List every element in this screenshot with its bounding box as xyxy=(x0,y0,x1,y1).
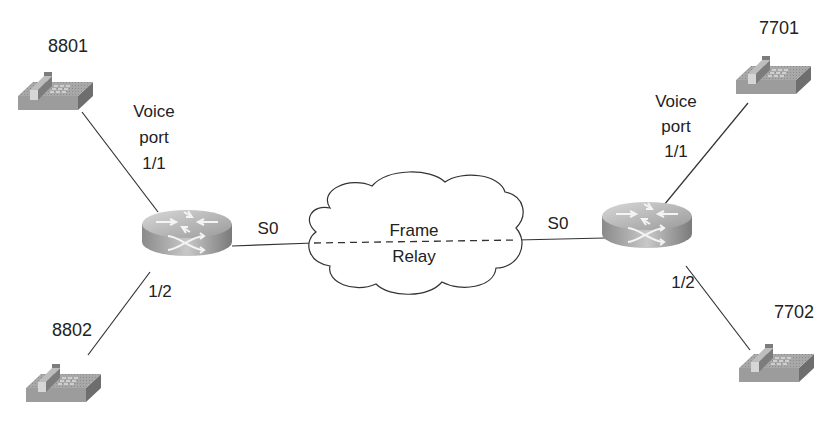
network-diagram: Frame Relay 8801 8802 7701 7702 Voice po… xyxy=(0,0,835,425)
phone-7701-icon xyxy=(736,56,811,94)
phone-8801-label: 8801 xyxy=(48,36,88,56)
link-8802-router-left xyxy=(88,272,150,355)
left-voice-port-label-line1: Voice xyxy=(133,102,175,121)
link-cloud-router-right xyxy=(517,238,605,240)
phone-7702-label: 7702 xyxy=(774,302,814,322)
right-voice-port-label-line2: port xyxy=(661,117,691,136)
left-voice-port-label-line2: port xyxy=(139,128,169,147)
phone-8802-icon xyxy=(26,364,101,402)
phone-8801-icon xyxy=(18,72,93,110)
right-port-1-2-label: 1/2 xyxy=(671,273,695,292)
router-right-icon xyxy=(602,202,692,248)
phone-8802-label: 8802 xyxy=(52,320,92,340)
cloud-label-line2: Relay xyxy=(392,247,436,266)
right-voice-port-label-line1: Voice xyxy=(655,92,697,111)
frame-relay-cloud: Frame Relay xyxy=(309,172,523,294)
left-voice-port-label-line3: 1/1 xyxy=(142,154,166,173)
right-voice-port-label-line3: 1/1 xyxy=(664,142,688,161)
left-s0-label: S0 xyxy=(258,219,279,238)
cloud-label-line1: Frame xyxy=(389,221,438,240)
link-router-right-7702 xyxy=(686,266,750,350)
phone-7701-label: 7701 xyxy=(759,18,799,38)
router-left-icon xyxy=(142,210,232,256)
left-port-1-2-label: 1/2 xyxy=(148,282,172,301)
link-router-left-cloud xyxy=(232,243,314,246)
right-s0-label: S0 xyxy=(548,214,569,233)
